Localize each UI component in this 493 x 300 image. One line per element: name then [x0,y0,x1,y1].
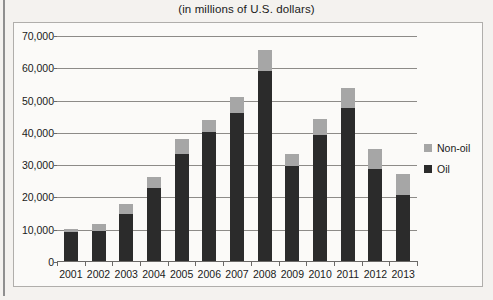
x-axis-tick-mark [334,262,335,266]
bar-segment-oil [175,154,189,261]
x-axis-tick-mark [195,262,196,266]
legend-item-label: Oil [437,163,450,175]
bar-stack [64,229,78,261]
x-axis-tick-label: 2005 [170,268,193,280]
y-axis-tick-label: 10,000 [6,224,54,236]
x-axis-tick-label: 2007 [225,268,248,280]
y-axis-tick-label: 20,000 [6,191,54,203]
plot-area [57,36,417,262]
x-axis-tick-mark [279,262,280,266]
square-swatch-icon [424,165,432,173]
bar-stack [92,224,106,261]
y-axis-tick-label: 50,000 [6,95,54,107]
bar-stack [258,50,272,261]
x-axis-tick-mark [417,262,418,266]
x-axis-tick-label: 2002 [87,268,110,280]
x-axis-tick-mark [389,262,390,266]
bar-segment-non-oil [64,229,78,232]
x-axis-tick-mark [362,262,363,266]
bar-segment-non-oil [119,204,133,214]
bar-stack [175,139,189,261]
x-axis-tick-mark [251,262,252,266]
gridline [57,68,417,69]
bar-stack [313,119,327,261]
gridline [57,36,417,37]
bar-segment-oil [285,166,299,261]
bar-segment-non-oil [368,149,382,169]
x-axis-tick-label: 2012 [364,268,387,280]
x-axis-tick-mark [223,262,224,266]
x-axis-tick-label: 2001 [59,268,82,280]
x-axis-labels: 2001200220032004200520062007200820092010… [57,268,418,284]
bar-stack [341,88,355,261]
bar-stack [230,97,244,261]
legend-item: Non-oil [424,142,488,154]
y-axis-labels: 010,00020,00030,00040,00050,00060,00070,… [2,36,54,262]
bar-segment-oil [341,108,355,261]
x-axis-tick-label: 2008 [253,268,276,280]
bar-segment-non-oil [92,224,106,231]
bar-stack [285,154,299,261]
x-axis-tick-mark [306,262,307,266]
bar-segment-oil [230,113,244,262]
bar-segment-non-oil [175,139,189,154]
bar-segment-oil [258,71,272,261]
bar-stack [147,177,161,261]
legend-item-label: Non-oil [437,142,470,154]
bar-stack [396,174,410,261]
x-axis-tick-label: 2009 [281,268,304,280]
y-axis-tick-label: 70,000 [6,30,54,42]
x-axis-tick-label: 2013 [391,268,414,280]
bar-stack [368,149,382,261]
bar-segment-oil [119,214,133,261]
bar-segment-non-oil [285,154,299,165]
y-axis-tick-label: 40,000 [6,127,54,139]
bar-segment-oil [64,232,78,261]
x-axis-tick-mark [57,262,58,266]
y-axis-tick-label: 60,000 [6,62,54,74]
bar-segment-oil [147,188,161,261]
x-axis-tick-label: 2010 [308,268,331,280]
bar-segment-oil [396,195,410,261]
bar-segment-non-oil [258,50,272,71]
x-axis-tick-label: 2011 [336,268,359,280]
bar-segment-oil [368,169,382,261]
bar-segment-oil [313,135,327,261]
x-axis-tick-mark [168,262,169,266]
y-axis-tick-label: 30,000 [6,159,54,171]
chart-legend: Non-oilOil [424,142,488,184]
chart-screenshot: (in millions of U.S. dollars) 010,00020,… [0,0,493,300]
x-axis-tick-mark [85,262,86,266]
square-swatch-icon [424,144,432,152]
x-axis-tick-label: 2003 [115,268,138,280]
bar-stack [202,120,216,261]
x-axis-tick-label: 2006 [198,268,221,280]
chart-title: (in millions of U.S. dollars) [0,3,493,15]
bar-segment-non-oil [230,97,244,112]
y-axis-tick-label: 0 [6,256,54,268]
x-axis-tick-label: 2004 [142,268,165,280]
bar-segment-non-oil [147,177,161,188]
x-axis-ticks [57,262,418,267]
bar-segment-non-oil [396,174,410,195]
bar-segment-oil [202,132,216,261]
bar-segment-oil [92,231,106,261]
bar-stack [119,204,133,261]
bar-segment-non-oil [202,120,216,132]
bar-segment-non-oil [341,88,355,107]
bar-segment-non-oil [313,119,327,135]
x-axis-tick-mark [112,262,113,266]
x-axis-tick-mark [140,262,141,266]
legend-item: Oil [424,163,488,175]
